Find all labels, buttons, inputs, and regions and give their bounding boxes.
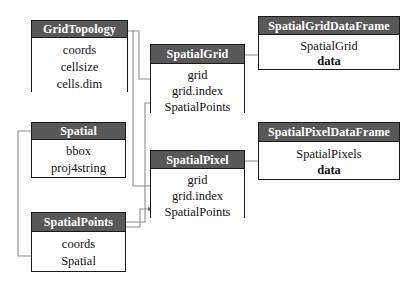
attribute-row: proj4string [32, 160, 125, 177]
class-header-spatialgriddataframe: SpatialGridDataFrame [259, 17, 399, 35]
attribute-row: SpatialPixels [259, 146, 399, 162]
attribute-row: grid [151, 67, 244, 83]
connector-spatialpoints-spatialpixel [126, 209, 153, 227]
attribute-row: coords [32, 236, 125, 253]
attribute-row: data [259, 54, 399, 69]
class-header-spatialpoints: SpatialPoints [32, 213, 125, 232]
class-body-gridtopology: coords cellsize cells.dim [32, 38, 127, 93]
attribute-row: data [259, 162, 399, 178]
class-header-spatialgrid: SpatialGrid [151, 45, 244, 64]
attribute-row: cells.dim [32, 76, 127, 93]
class-box-spatialgriddataframe[interactable]: SpatialGridDataFrame SpatialGrid data [258, 16, 400, 70]
class-body-spatialgriddataframe: SpatialGrid data [259, 35, 399, 69]
class-box-spatialpixel[interactable]: SpatialPixel grid grid.index SpatialPoin… [150, 150, 245, 218]
attribute-row: SpatialPoints [151, 204, 244, 220]
class-diagram: GridTopology coords cellsize cells.dim S… [0, 0, 408, 287]
attribute-row: SpatialPoints [151, 99, 244, 115]
attribute-row: Spatial [32, 253, 125, 270]
class-header-spatial: Spatial [32, 123, 125, 140]
class-box-gridtopology[interactable]: GridTopology coords cellsize cells.dim [31, 20, 128, 92]
class-header-gridtopology: GridTopology [32, 21, 127, 38]
attribute-row: SpatialGrid [259, 39, 399, 54]
class-body-spatialgrid: grid grid.index SpatialPoints [151, 64, 244, 115]
attribute-row: grid.index [151, 83, 244, 99]
attribute-row: bbox [32, 143, 125, 160]
class-body-spatialpixel: grid grid.index SpatialPoints [151, 169, 244, 220]
attribute-row: grid.index [151, 188, 244, 204]
attribute-row: coords [32, 42, 127, 59]
class-box-spatial[interactable]: Spatial bbox proj4string [31, 122, 126, 178]
class-box-spatialpixeldataframe[interactable]: SpatialPixelDataFrame SpatialPixels data [258, 122, 400, 180]
class-body-spatialpixeldataframe: SpatialPixels data [259, 142, 399, 178]
attribute-row: grid [151, 172, 244, 188]
class-box-spatialgrid[interactable]: SpatialGrid grid grid.index SpatialPoint… [150, 44, 245, 113]
class-box-spatialpoints[interactable]: SpatialPoints coords Spatial [31, 212, 126, 272]
class-header-spatialpixeldataframe: SpatialPixelDataFrame [259, 123, 399, 142]
class-header-spatialpixel: SpatialPixel [151, 151, 244, 169]
attribute-row: cellsize [32, 59, 127, 76]
class-body-spatialpoints: coords Spatial [32, 232, 125, 270]
class-body-spatial: bbox proj4string [32, 140, 125, 177]
